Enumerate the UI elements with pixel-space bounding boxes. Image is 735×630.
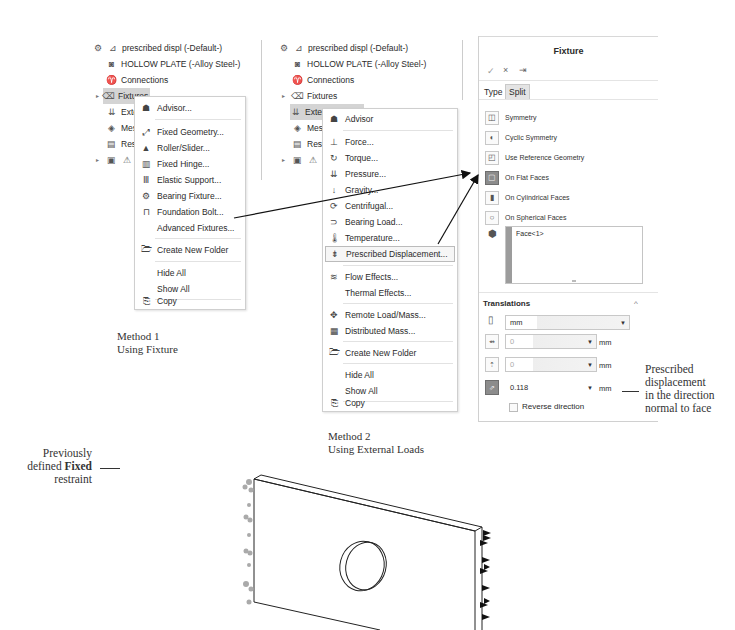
arrow-prescribed-displacement-to-flat-faces [438, 175, 478, 244]
hole [334, 536, 389, 596]
plate-model [254, 475, 482, 630]
diagram-overlay [0, 0, 735, 630]
fixed-restraint-symbols [243, 479, 254, 605]
arrow-advanced-fixtures-to-flat-faces [234, 173, 470, 218]
